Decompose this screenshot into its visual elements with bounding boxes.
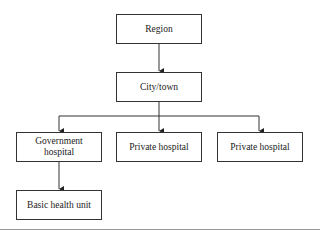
node-basic-health-unit: Basic health unit (16, 190, 102, 220)
node-region: Region (116, 14, 202, 44)
node-private-hospital-2: Private hospital (217, 132, 303, 162)
node-private-hospital-1: Private hospital (116, 132, 202, 162)
bottom-divider (0, 229, 320, 230)
node-city-town: City/town (116, 72, 202, 102)
node-government-hospital: Government hospital (16, 132, 102, 162)
